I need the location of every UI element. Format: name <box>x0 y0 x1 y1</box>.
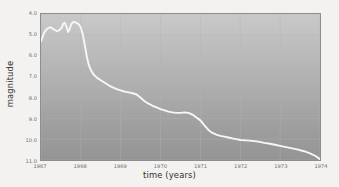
x-tick-label: 1972 <box>229 163 253 169</box>
x-tick-label: 1970 <box>148 163 172 169</box>
x-tick-label: 1974 <box>309 163 333 169</box>
x-axis-title: time (years) <box>0 170 339 180</box>
y-tick-label: 10.0 <box>23 137 37 143</box>
plot-area <box>40 13 321 161</box>
light-curve <box>41 14 320 160</box>
y-tick-label: 9.0 <box>23 116 37 122</box>
x-tick-label: 1969 <box>108 163 132 169</box>
y-axis-title: magnitude <box>5 48 15 120</box>
y-tick-label: 8.0 <box>23 95 37 101</box>
y-tick-label: 5.0 <box>23 31 37 37</box>
x-tick-label: 1967 <box>28 163 52 169</box>
y-tick-label: 4.0 <box>23 10 37 16</box>
x-tick-label: 1973 <box>269 163 293 169</box>
x-tick-label: 1971 <box>189 163 213 169</box>
y-tick-label: 6.0 <box>23 52 37 58</box>
x-tick-label: 1968 <box>68 163 92 169</box>
figure: 4.05.06.07.08.09.010.011.0 1967196819691… <box>0 0 339 187</box>
y-tick-label: 7.0 <box>23 73 37 79</box>
